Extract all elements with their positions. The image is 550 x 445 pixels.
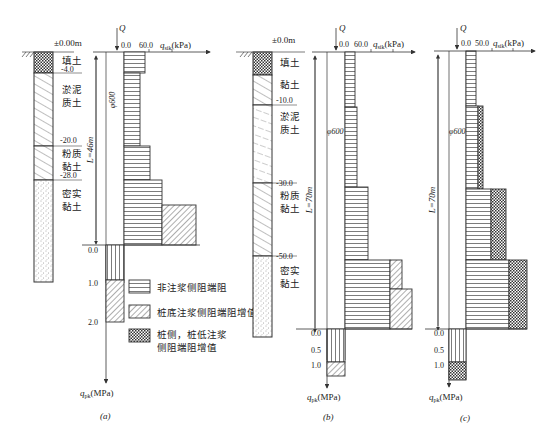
axis-tick: 1.0 [311,361,321,370]
pile-length-label: L=70m [427,186,437,214]
axis-tick: 0.5 [434,346,444,355]
layer-name: 质土 [280,124,300,135]
axis-tick: 0.0 [434,329,444,338]
ground-level-label: ±0.00m [54,38,82,48]
layer-name: 淤泥 [280,111,300,122]
panel-a: ±0.00m 填土 -4.0 淤泥 质土 -20.0 粉质 黏土 -28.0 密… [22,23,210,421]
axis-tick: 60.0 [139,41,153,50]
axis-label: qpk(MPa) [307,392,341,403]
side-resistance-bars [345,52,412,329]
layer-name: 淤泥 [62,84,82,95]
legend-swatch-crosshatch [129,329,150,342]
axis-tick: 0.0 [121,41,131,50]
layer-name: 黏土 [280,79,300,90]
tip-resistance-bars [106,245,124,322]
legend-label: 侧阻端阻增值 [157,342,217,353]
axis-label: qpk(MPa) [429,392,463,403]
axis-tick: 2.0 [88,318,98,327]
layer-name: 黏土 [62,201,82,212]
legend-label: 桩底注浆侧阻端阻增值 [157,307,257,318]
ground-level-label: ±0.0m [272,35,295,45]
layer-depth: -30.0 [276,179,293,188]
layer-depth: -28.0 [60,171,77,180]
soil-column [253,52,272,337]
layer-depth: -50.0 [276,252,293,261]
load-label: Q [339,23,346,33]
layer-depth: -10.0 [276,96,293,105]
layer-name: 密实 [280,265,300,276]
layer-depth: -20.0 [60,136,77,145]
axis-tick: 0.0 [88,246,98,255]
panel-c: Q 0.0 50.0 qsik(kPa) L=70m φ600 0.0 0.5 … [425,23,535,423]
load-label: Q [460,23,467,33]
layer-name: 粉质 [280,190,300,201]
axis-tick: 1.0 [88,279,98,288]
pile-diameter-label: φ600 [449,127,465,136]
panel-caption: (b) [323,412,334,422]
side-resistance-bars [466,51,527,329]
axis-tick: 60.0 [354,40,368,49]
panel-b: ±0.0m 填土 黏土 -10.0 淤泥 质土 -30.0 粉质 黏土 -50.… [236,23,415,422]
pile-length-label: L=70m [304,186,314,214]
layer-name: 填土 [280,57,300,68]
axis-tick: 1.0 [434,361,444,370]
layer-depth: -4.0 [61,65,74,74]
legend-swatch-diagonal [129,305,150,318]
layer-name: 黏土 [280,278,300,289]
tip-resistance-bars [449,329,466,380]
pile-length-label: L=46m [85,136,95,164]
axis-label: qsik(kPa) [160,40,191,51]
pile-resistance-diagram: ±0.00m 填土 -4.0 淤泥 质土 -20.0 粉质 黏土 -28.0 密… [0,0,550,445]
panel-caption: (a) [100,411,111,421]
layer-name: 黏土 [280,203,300,214]
axis-tick: 0.5 [311,346,321,355]
pile-diameter-label: φ600 [108,92,117,108]
load-label: Q [119,23,126,33]
axis-tick: 0.0 [461,39,471,48]
layer-name: 密实 [62,188,82,199]
tip-resistance-bars [327,329,345,376]
layer-name: 粉质 [62,148,82,159]
soil-column [34,52,53,282]
axis-label: qsik(kPa) [493,38,524,49]
legend-swatch-horizontal [129,280,150,293]
pile-diameter-label: φ600 [327,127,343,136]
layer-name: 质土 [62,97,82,108]
legend-label: 桩侧，桩低注浆 [157,329,227,340]
side-resistance-bars [124,52,196,245]
axis-tick: 50.0 [475,39,489,48]
legend-label: 非注浆侧阻端阻 [157,282,227,293]
legend: 非注浆侧阻端阻 桩底注浆侧阻端阻增值 桩侧，桩低注浆 侧阻端阻增值 [129,280,257,353]
axis-label: qpk(MPa) [80,388,114,399]
axis-tick: 0.0 [339,40,349,49]
axis-label: qsik(kPa) [373,39,404,50]
axis-tick: 0.0 [311,329,321,338]
panel-caption: (c) [460,413,470,423]
